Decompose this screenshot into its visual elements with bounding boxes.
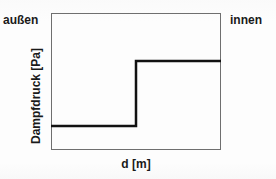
label-outside: außen	[3, 13, 38, 27]
y-axis-label: Dampfdruck [Pa]	[29, 48, 43, 144]
x-axis-label: d [m]	[0, 157, 274, 171]
vapor-pressure-step-diagram: außen innen Dampfdruck [Pa] d [m]	[0, 0, 276, 179]
label-inside: innen	[230, 13, 262, 27]
plot-frame	[51, 13, 221, 150]
